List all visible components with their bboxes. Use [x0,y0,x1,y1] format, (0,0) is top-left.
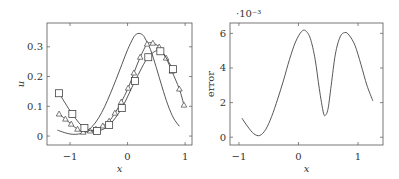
y-tick-label: 0 [220,132,226,143]
series-line-curve-squares [59,51,173,132]
x-tick-label: 0 [124,151,130,162]
y-tick-label: 4 [220,62,226,73]
y-tick-label: 2 [220,97,226,108]
triangle-marker [63,116,69,121]
y-tick-label: 6 [220,28,226,39]
plot-area [242,30,373,136]
square-marker [94,128,101,135]
x-tick-label: 0 [295,151,301,162]
x-tick-label: 1 [182,151,188,162]
x-axis-label: x [117,163,123,174]
x-tick-label: −1 [63,151,78,162]
plot-frame [47,23,192,145]
triangle-marker [177,86,183,91]
triangle-marker [118,99,124,104]
square-marker [106,122,113,129]
plot-area [56,33,187,134]
y-axis-label: error [205,71,216,97]
figure: −10100.10.20.3xu −1010246xerror·10⁻³ [0,0,399,179]
square-marker [132,78,139,85]
plot-frame [230,23,383,145]
triangle-marker [181,102,187,107]
series-line-error [242,30,373,136]
triangle-marker [144,41,150,46]
y-scale-multiplier-label: ·10⁻³ [236,8,261,19]
x-tick-label: −1 [232,151,247,162]
y-axis-label: u [15,81,26,87]
y-tick-label: 0 [37,131,43,142]
triangle-marker [131,70,137,75]
square-marker [81,125,88,132]
triangle-marker [56,111,62,116]
right-plot-error: −1010246xerror·10⁻³ [205,8,383,174]
square-marker [157,48,164,55]
y-tick-label: 0.1 [27,101,43,112]
x-axis-label: x [304,163,310,174]
triangle-marker [75,126,81,131]
y-tick-label: 0.3 [27,41,43,52]
triangle-marker [125,85,131,90]
square-marker [118,105,125,112]
x-tick-label: 1 [355,151,361,162]
square-marker [145,54,152,61]
triangle-marker [137,54,143,59]
square-marker [56,90,63,97]
square-marker [69,111,76,118]
square-marker [170,66,177,73]
y-tick-label: 0.2 [27,71,43,82]
left-plot-u: −10100.10.20.3xu [15,23,192,174]
triangle-marker [112,110,118,115]
